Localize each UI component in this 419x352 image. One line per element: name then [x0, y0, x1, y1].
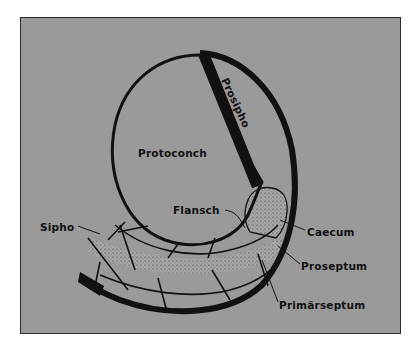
label-protoconch: Protoconch: [138, 147, 207, 159]
label-primarseptum: Primärseptum: [279, 299, 365, 311]
label-proseptum: Proseptum: [301, 260, 367, 272]
label-caecum: Caecum: [307, 226, 355, 238]
caecum-body: [245, 188, 287, 239]
diagram-svg: Prosipho Protoconch Flansch Sipho Caecum…: [0, 0, 419, 352]
label-sipho: Sipho: [40, 221, 74, 233]
label-flansch: Flansch: [173, 204, 220, 216]
